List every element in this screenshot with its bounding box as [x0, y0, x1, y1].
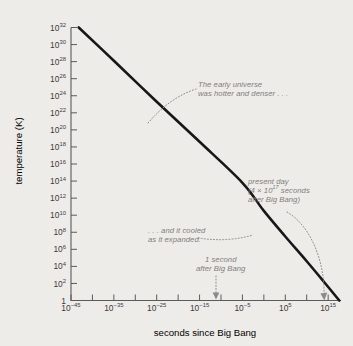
- annotation-cooled-expanded-line1: . . . and it cooled: [148, 226, 205, 235]
- y-axis-tick-label: 1016: [50, 159, 67, 170]
- chart-canvas: 1032103010281026102410221020101810161014…: [0, 0, 353, 346]
- annotation-present-day-line3: after Big Bang): [248, 195, 310, 204]
- y-axis-tick-label: 108: [53, 227, 66, 238]
- annotation-present-day-line2-post: seconds: [279, 186, 310, 195]
- x-axis-tick-label: 10−45: [61, 302, 81, 313]
- annotation-present-day-line2-pre: (4 × 10: [248, 186, 273, 195]
- y-axis-tick-label: 1030: [50, 39, 67, 50]
- y-axis-tick-label: 1018: [50, 141, 67, 152]
- annotation-early-universe-line2: was hotter and denser . . .: [198, 89, 288, 98]
- annotation-cooled-expanded: . . . and it cooled as it expanded.: [148, 226, 205, 244]
- leader-early-universe: [148, 89, 196, 123]
- y-axis-tick-label: 1024: [50, 90, 67, 101]
- leader-cooled-expanded: [198, 235, 253, 240]
- annotation-cooled-expanded-line2: as it expanded.: [148, 235, 205, 244]
- y-axis-tick-label: 106: [53, 244, 66, 255]
- annotation-early-universe: The early universe was hotter and denser…: [198, 80, 288, 98]
- y-axis-tick-label: 1022: [50, 107, 66, 118]
- y-axis-tick-labels: 1032103010281026102410221020101810161014…: [50, 22, 67, 306]
- annotation-present-day-line2: (4 × 1017 seconds: [248, 186, 310, 195]
- annotation-present-day: present day (4 × 1017 seconds after Big …: [248, 177, 310, 205]
- y-axis-tick-label: 1028: [50, 56, 67, 67]
- x-axis-tick-label: 10−5: [234, 302, 251, 313]
- leader-present-day: [287, 212, 324, 296]
- arrowhead-one-second: [213, 293, 220, 300]
- x-axis-tick-label: 1015: [320, 302, 337, 313]
- y-axis-tick-label: 1026: [50, 73, 67, 84]
- y-axis-tick-label: 1012: [50, 193, 66, 204]
- y-axis-tick-label: 1010: [50, 210, 67, 221]
- y-axis-title-wrap: temperature (K): [8, 91, 26, 211]
- arrowhead-present-day: [320, 293, 327, 301]
- x-axis-tick-label: 10−35: [104, 302, 124, 313]
- x-axis-tick-labels: 10−4510−3510−2510−1510−51051015: [61, 302, 336, 313]
- x-axis-tick-label: 105: [279, 302, 292, 313]
- x-axis-title: seconds since Big Bang: [154, 327, 256, 338]
- y-axis-tick-label: 1032: [50, 22, 66, 33]
- annotation-one-second-line2: after Big Bang: [196, 264, 245, 273]
- y-axis-tick-label: 102: [53, 278, 66, 289]
- x-axis-tick-label: 10−25: [147, 302, 167, 313]
- annotation-early-universe-line1: The early universe: [198, 80, 288, 89]
- x-axis-title-wrap: seconds since Big Bang: [60, 322, 350, 340]
- x-axis-tick-label: 10−15: [190, 302, 210, 313]
- y-axis-title: temperature (K): [13, 117, 24, 184]
- y-axis-tick-label: 1014: [50, 176, 67, 187]
- y-axis-ticks: [71, 28, 77, 301]
- y-axis-tick-label: 1020: [50, 124, 67, 135]
- y-axis-tick-label: 104: [53, 261, 66, 272]
- annotation-one-second: 1 second after Big Bang: [196, 255, 245, 273]
- annotation-one-second-line1: 1 second: [196, 255, 245, 264]
- x-axis-ticks: [71, 295, 328, 301]
- temperature-vs-time-chart: 1032103010281026102410221020101810161014…: [0, 0, 353, 346]
